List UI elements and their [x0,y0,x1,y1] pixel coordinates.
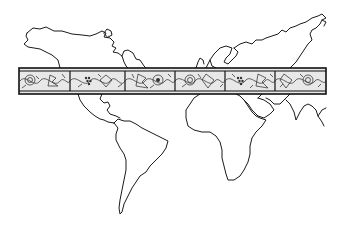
central-america-outline [78,94,120,123]
arabian-peninsula-outline [244,94,290,118]
north-america-outline [24,27,146,68]
decorative-ornament-band [19,68,326,94]
europe-outline [196,46,238,68]
asia-outline [234,14,326,68]
world-map [0,0,345,233]
south-america-outline [114,119,168,214]
africa-outline [186,94,266,180]
indian-subcontinent-outline [286,100,326,126]
